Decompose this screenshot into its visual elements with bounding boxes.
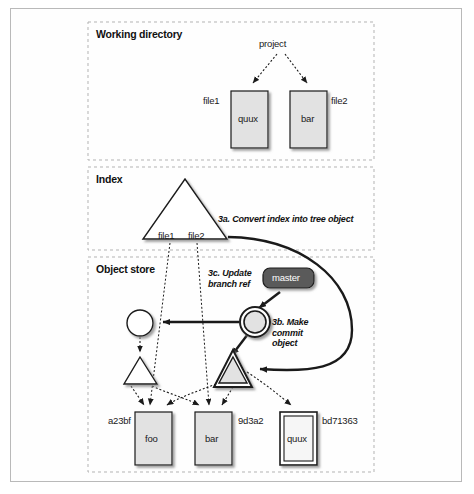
old-tree-node: [124, 357, 157, 384]
label-working-file2: file2: [331, 95, 347, 106]
step-label-3b: 3b. Make commit object: [272, 317, 308, 349]
section-title-working-directory: Working directory: [96, 28, 182, 40]
label-index-file1: file1: [158, 230, 174, 241]
section-title-object-store: Object store: [96, 263, 155, 275]
label-blob-hash-bd71363: bd71363: [322, 415, 358, 426]
edge-project-to-file1: [253, 54, 277, 83]
parent-commit-node: [127, 310, 153, 336]
new-tree-node: [214, 350, 252, 387]
text-master-ref: master: [272, 272, 300, 283]
index-tree-triangle: [143, 179, 227, 239]
section-title-index: Index: [96, 173, 122, 185]
new-commit-node: [240, 307, 270, 337]
step-label-3b-line1: 3b. Make: [272, 317, 308, 328]
edge-new-tree-to-blob-foo: [167, 384, 216, 405]
step-label-3b-line3: object: [272, 338, 308, 349]
edge-new-tree-to-blob-bar: [222, 387, 233, 405]
edge-old-tree-to-blob-bar: [152, 386, 199, 405]
label-index-file2: file2: [188, 230, 204, 241]
text-working-box-bar: bar: [301, 113, 314, 124]
edge-master-to-commit: [259, 292, 280, 308]
step-label-3c: 3c. Update branch ref: [208, 268, 252, 289]
label-project: project: [259, 38, 286, 49]
step-label-3b-line2: commit: [272, 328, 308, 339]
step-label-3a: 3a. Convert index into tree object: [218, 214, 353, 225]
step-label-3c-line2: branch ref: [208, 279, 252, 290]
text-blob-box-bar: bar: [205, 433, 218, 444]
label-working-file1: file1: [203, 95, 219, 106]
diagram-page: Working directory Index Object store pro…: [0, 0, 474, 494]
edge-new-tree-to-blob-quux: [247, 372, 291, 405]
edge-old-tree-to-blob-foo: [131, 386, 144, 405]
label-blob-hash-9d3a2: 9d3a2: [238, 415, 263, 426]
step-label-3c-line1: 3c. Update: [208, 268, 252, 279]
label-blob-hash-a23bf: a23bf: [108, 415, 131, 426]
diagram-canvas: [0, 0, 474, 494]
edge-project-to-file2: [285, 54, 307, 83]
text-blob-box-quux: quux: [287, 433, 307, 444]
text-blob-box-foo: foo: [145, 433, 158, 444]
text-working-box-quux: quux: [238, 113, 258, 124]
